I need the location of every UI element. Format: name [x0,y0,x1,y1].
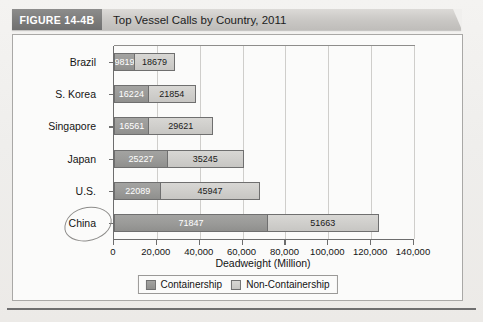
y-axis-label-brazil: Brazil [70,56,96,68]
x-axis-tick [242,240,243,245]
figure-bottom-rule [7,308,476,310]
x-axis-tick [156,240,157,245]
x-axis-tick [199,240,200,245]
legend-swatch-non-containership [231,280,241,290]
x-axis-tick-label: 20,000 [141,246,170,257]
bar-segment-non-containership[interactable]: 35245 [168,150,244,168]
stacked-bar[interactable]: 1656129621 [114,117,213,135]
bar-segment-containership[interactable]: 22089 [114,182,161,200]
figure-number-badge: FIGURE 14-4B [12,9,102,30]
legend-label-containership: Containership [160,279,222,290]
x-axis-tick-label: 40,000 [184,246,213,257]
stacked-bar[interactable]: 7184751663 [114,214,379,232]
x-axis-tick-label: 60,000 [227,246,256,257]
gridline [414,46,415,239]
x-axis-tick [284,240,285,245]
bar-segment-containership[interactable]: 16224 [114,85,149,103]
chart-row: China7184751663 [114,207,414,239]
x-axis-tick-label: 100,000 [310,246,344,257]
figure-page: FIGURE 14-4B Top Vessel Calls by Country… [0,0,483,322]
bar-segment-non-containership[interactable]: 21854 [149,85,196,103]
bar-segment-containership[interactable]: 25227 [114,150,168,168]
bar-segment-containership[interactable]: 71847 [114,214,268,232]
chart-row: Japan2522735245 [114,143,414,175]
legend-item-containership: Containership [145,279,222,290]
chart-row: Singapore1656129621 [114,110,414,142]
x-axis-tick [370,240,371,245]
y-axis-label-china: China [69,217,96,229]
y-axis-label-s-korea: S. Korea [55,88,96,100]
x-axis-tick-label: 120,000 [353,246,387,257]
bar-segment-containership[interactable]: 9819 [114,53,135,71]
bar-segment-non-containership[interactable]: 51663 [268,214,379,232]
x-axis-tick-label: 80,000 [270,246,299,257]
header-fold-corner [453,9,462,30]
plot-area: Brazil981918679S. Korea1622421854Singapo… [113,46,414,240]
legend-item-non-containership: Non-Containership [231,279,329,290]
legend-swatch-containership [145,280,155,290]
chart-row: U.S.2208945947 [114,175,414,207]
chart-card: Brazil981918679S. Korea1622421854Singapo… [12,34,463,301]
bar-segment-non-containership[interactable]: 29621 [149,117,212,135]
bar-segment-non-containership[interactable]: 18679 [135,53,175,71]
x-axis-tick [113,240,114,245]
figure-title: Top Vessel Calls by Country, 2011 [113,9,286,30]
bar-segment-containership[interactable]: 16561 [114,117,149,135]
y-axis-label-singapore: Singapore [48,120,96,132]
y-axis-label-japan: Japan [67,153,96,165]
x-axis-tick [413,240,414,245]
x-axis-title: Deadweight (Million) [113,257,413,269]
x-axis-tick-label: 0 [110,246,115,257]
legend-label-non-containership: Non-Containership [246,279,329,290]
stacked-bar[interactable]: 981918679 [114,53,175,71]
figure-header: FIGURE 14-4B Top Vessel Calls by Country… [12,9,461,30]
x-axis-tick-label: 140,000 [396,246,430,257]
y-axis-label-u-s: U.S. [76,185,96,197]
stacked-bar[interactable]: 2522735245 [114,150,244,168]
chart-row: S. Korea1622421854 [114,78,414,110]
x-axis-tick [327,240,328,245]
chart-legend: Containership Non-Containership [137,275,337,294]
stacked-bar[interactable]: 2208945947 [114,182,260,200]
chart-row: Brazil981918679 [114,46,414,78]
stacked-bar[interactable]: 1622421854 [114,85,196,103]
bar-segment-non-containership[interactable]: 45947 [161,182,259,200]
